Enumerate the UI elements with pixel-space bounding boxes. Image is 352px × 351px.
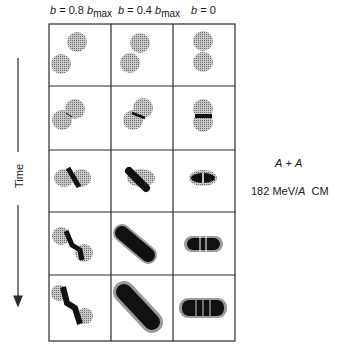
collision-grid [0, 0, 352, 351]
cell-r5-c1 [51, 285, 93, 324]
cell-r3-c1 [54, 168, 91, 187]
cell-r3-c2 [127, 169, 155, 188]
cell-r5-c2 [124, 292, 152, 322]
cell-r2-c1 [52, 99, 85, 130]
cell-r1-c3 [193, 31, 213, 72]
cell-r3-c3 [189, 170, 217, 186]
cell-r4-c1 [52, 227, 93, 262]
cell-r5-c3 [179, 298, 227, 318]
cell-r1-c1 [51, 32, 87, 74]
cell-r4-c3 [184, 236, 223, 252]
cell-r1-c2 [120, 33, 150, 73]
cell-r4-c2 [122, 233, 148, 255]
time-axis-label: Time [13, 161, 25, 191]
cell-r2-c3 [193, 99, 213, 132]
energy-label: 182 MeV/A CM [251, 185, 329, 197]
cell-r2-c2 [123, 98, 153, 130]
system-label: A + A [275, 157, 302, 169]
